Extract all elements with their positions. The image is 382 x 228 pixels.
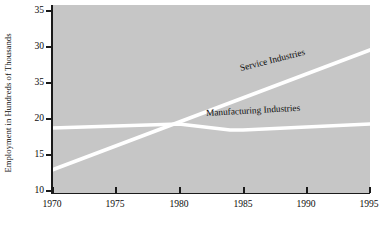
y-axis-title: Employment in Hundreds of Thousands [0,0,16,206]
series-line-manufacturing [52,124,370,130]
x-tick-mark-1 [115,187,117,193]
x-tick-label-2: 1980 [159,198,199,209]
y-tick-label-2: 35 [18,77,44,87]
y-axis-line [51,5,53,194]
x-tick-mark-4 [306,187,308,193]
series-lines [52,5,370,193]
y-tick-label-0: 35 [18,5,44,15]
x-tick-label-4: 1990 [286,198,326,209]
y-tick-label-1: 30 [18,41,44,51]
y-axis-title-text: Employment in Hundreds of Thousands [3,33,13,172]
x-tick-label-3: 1985 [223,198,263,209]
y-tick-label-4: 15 [18,149,44,159]
x-tick-label-5: 1995 [349,198,382,209]
y-tick-label-3: 20 [18,113,44,123]
x-tick-label-0: 1970 [32,198,72,209]
plot-area: Service Industries Manufacturing Industr… [52,5,370,193]
employment-line-chart: Employment in Hundreds of Thousands 35 3… [0,0,382,228]
y-tick-label-5: 10 [18,185,44,195]
x-tick-mark-2 [179,187,181,193]
x-tick-mark-3 [243,187,245,193]
x-tick-mark-0 [52,187,54,193]
x-tick-mark-5 [369,187,371,193]
x-tick-label-1: 1975 [95,198,135,209]
x-axis-line [51,193,370,195]
